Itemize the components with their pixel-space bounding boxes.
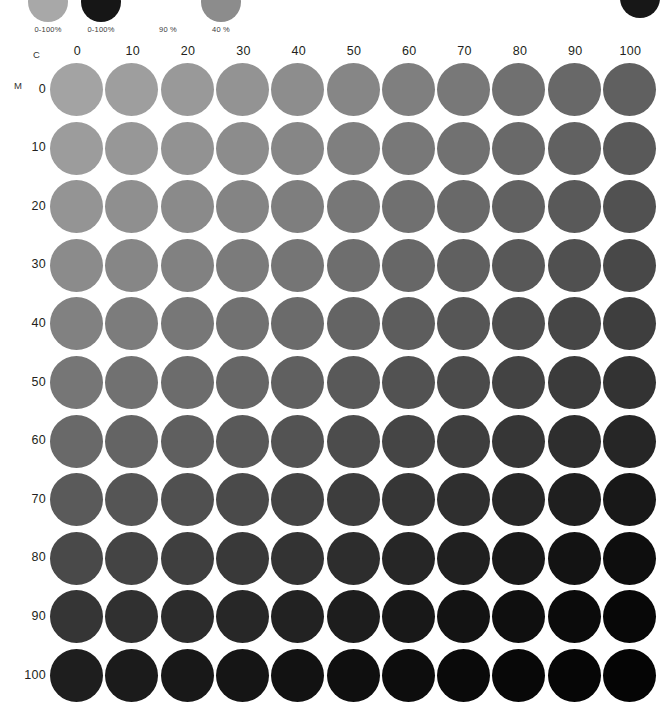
grid-dot bbox=[492, 122, 545, 175]
grid-dot bbox=[548, 122, 601, 175]
grid-dot bbox=[105, 649, 158, 702]
grid-dot bbox=[161, 122, 214, 175]
grid-dot bbox=[105, 415, 158, 468]
grid-dot bbox=[382, 649, 435, 702]
grid-dot bbox=[492, 415, 545, 468]
grid-dot bbox=[492, 63, 545, 116]
grid-dot bbox=[161, 297, 214, 350]
grid-dot bbox=[50, 122, 103, 175]
grid-dot bbox=[327, 122, 380, 175]
grid-dot bbox=[271, 63, 324, 116]
grid-dot bbox=[437, 590, 490, 643]
grid-dot bbox=[216, 180, 269, 233]
grid-dot bbox=[382, 590, 435, 643]
grid-dot bbox=[603, 649, 656, 702]
grid-dot bbox=[492, 239, 545, 292]
grid-dot bbox=[548, 649, 601, 702]
grid-dot bbox=[603, 415, 656, 468]
grid-dot bbox=[548, 297, 601, 350]
grid-dot bbox=[437, 122, 490, 175]
grid-dot bbox=[216, 473, 269, 526]
grid-dot bbox=[105, 590, 158, 643]
grid-dot bbox=[437, 180, 490, 233]
grid-dot bbox=[271, 122, 324, 175]
grid-dot bbox=[161, 239, 214, 292]
grid-dot bbox=[50, 356, 103, 409]
grid-dot bbox=[327, 239, 380, 292]
grid-dot bbox=[161, 415, 214, 468]
grid-dot bbox=[216, 649, 269, 702]
grid-dot bbox=[271, 473, 324, 526]
grid-dot bbox=[161, 356, 214, 409]
grid-dot bbox=[382, 239, 435, 292]
grid-dot bbox=[216, 415, 269, 468]
grid-dot bbox=[327, 297, 380, 350]
grid-dot bbox=[216, 532, 269, 585]
grid-dot bbox=[105, 297, 158, 350]
grid-dot bbox=[382, 532, 435, 585]
grid-dot bbox=[548, 473, 601, 526]
grid-dot bbox=[492, 473, 545, 526]
grid-dot bbox=[271, 356, 324, 409]
grid-dot bbox=[548, 180, 601, 233]
grid-dot bbox=[105, 122, 158, 175]
grid-dot bbox=[492, 297, 545, 350]
grid-dot bbox=[437, 532, 490, 585]
grid-dot bbox=[161, 590, 214, 643]
grid-dot bbox=[105, 473, 158, 526]
grid-dot bbox=[327, 590, 380, 643]
grid-dot bbox=[216, 590, 269, 643]
grid-dot bbox=[382, 63, 435, 116]
grid-dot bbox=[271, 297, 324, 350]
grid-dot bbox=[161, 180, 214, 233]
grid-dot bbox=[437, 415, 490, 468]
grid-dot bbox=[327, 180, 380, 233]
grid-dot bbox=[271, 649, 324, 702]
grid-dot bbox=[50, 297, 103, 350]
grid-dot bbox=[216, 356, 269, 409]
grid-dot bbox=[50, 415, 103, 468]
grid-dot bbox=[382, 473, 435, 526]
grid-dot bbox=[492, 590, 545, 643]
grid-dot bbox=[327, 356, 380, 409]
grid-dot bbox=[161, 473, 214, 526]
grid-dot bbox=[437, 297, 490, 350]
grid-dot bbox=[327, 649, 380, 702]
grid-dot bbox=[161, 63, 214, 116]
grid-dot bbox=[548, 590, 601, 643]
grid-dot bbox=[603, 356, 656, 409]
grid-dot bbox=[382, 180, 435, 233]
grid-dot bbox=[105, 356, 158, 409]
grid-dot bbox=[327, 473, 380, 526]
grid-dot bbox=[437, 63, 490, 116]
grid-dot bbox=[161, 532, 214, 585]
grid-dot bbox=[548, 63, 601, 116]
grid-dot bbox=[271, 532, 324, 585]
grid-dot bbox=[492, 356, 545, 409]
grid-dot bbox=[603, 590, 656, 643]
grid-dot bbox=[382, 122, 435, 175]
grid-dot bbox=[216, 297, 269, 350]
grid-dot bbox=[327, 415, 380, 468]
grid-dot bbox=[492, 649, 545, 702]
grid-dot bbox=[327, 532, 380, 585]
grid-dot bbox=[50, 532, 103, 585]
grid-dot bbox=[437, 239, 490, 292]
grid-dot bbox=[50, 63, 103, 116]
grid-dot bbox=[603, 122, 656, 175]
grid-dot bbox=[492, 532, 545, 585]
grid-dot bbox=[50, 590, 103, 643]
grid-dot bbox=[216, 63, 269, 116]
grid-dot bbox=[327, 63, 380, 116]
grid-dot bbox=[548, 415, 601, 468]
grid-dot bbox=[105, 180, 158, 233]
grid-dot bbox=[548, 532, 601, 585]
grid-dot bbox=[437, 473, 490, 526]
grid-dot bbox=[548, 356, 601, 409]
grid-dot bbox=[437, 356, 490, 409]
grid-dot bbox=[105, 532, 158, 585]
grid-dot bbox=[105, 63, 158, 116]
grid-dot bbox=[382, 415, 435, 468]
